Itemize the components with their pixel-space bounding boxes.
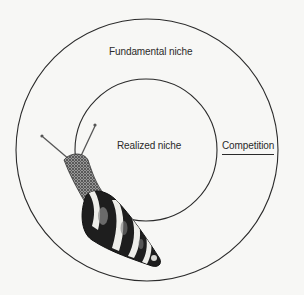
fundamental-niche-label: Fundamental niche	[109, 46, 192, 57]
competition-label: Competition	[222, 140, 274, 155]
realized-niche-label: Realized niche	[117, 140, 181, 151]
